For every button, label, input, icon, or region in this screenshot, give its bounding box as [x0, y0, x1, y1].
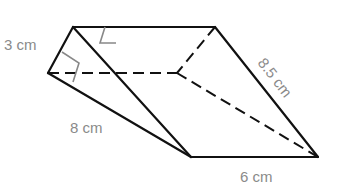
label-base-width: 6 cm	[240, 168, 273, 185]
hidden-edge-back-vertical	[177, 27, 215, 73]
edge-diagonal	[73, 27, 191, 157]
prism-diagram: 3 cm 8 cm 6 cm 8.5 cm	[0, 0, 349, 188]
hidden-edge-back-slant	[177, 73, 318, 157]
label-hypotenuse-edge: 8.5 cm	[255, 54, 296, 100]
right-angle-marker-left	[62, 52, 79, 82]
edge-right-slant	[215, 27, 318, 157]
right-angle-marker-top	[100, 27, 116, 43]
edge-front-vertical	[48, 27, 73, 73]
edge-left-slant	[48, 73, 191, 157]
label-height: 3 cm	[4, 36, 37, 53]
label-slant-edge: 8 cm	[70, 119, 103, 136]
